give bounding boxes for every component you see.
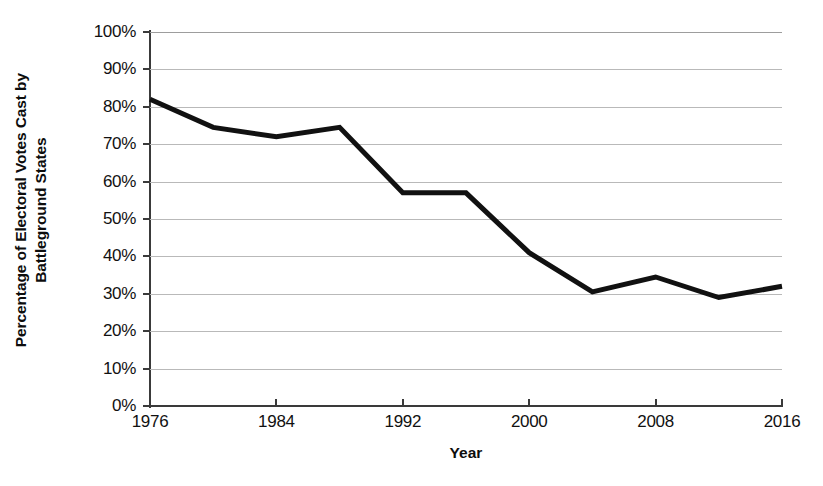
x-axis-title: Year	[150, 444, 782, 462]
x-axis-tick-labels: 197619841992200020082016	[0, 412, 823, 442]
chart-figure: Percentage of Electoral Votes Cast by Ba…	[0, 0, 823, 486]
y-tick-label-70: 70%	[103, 134, 136, 154]
y-tick-label-40: 40%	[103, 246, 136, 266]
y-tick-label-60: 60%	[103, 172, 136, 192]
x-tick-label-1984: 1984	[258, 412, 295, 432]
y-axis-title-line-2: Battleground States	[31, 73, 51, 347]
y-tick-label-30: 30%	[103, 284, 136, 304]
y-tick-label-100: 100%	[94, 22, 136, 42]
y-tick-label-20: 20%	[103, 321, 136, 341]
y-tick-label-80: 80%	[103, 97, 136, 117]
y-axis-title-line-1: Percentage of Electoral Votes Cast by	[12, 73, 29, 347]
y-axis-title: Percentage of Electoral Votes Cast by Ba…	[0, 0, 62, 420]
series-line-battleground-states	[150, 99, 782, 297]
x-tick-label-2000: 2000	[511, 412, 548, 432]
series-line-chart	[150, 32, 782, 406]
y-tick-label-10: 10%	[103, 359, 136, 379]
x-tick-label-2016: 2016	[764, 412, 801, 432]
y-tick-label-50: 50%	[103, 209, 136, 229]
x-tick-label-2008: 2008	[637, 412, 674, 432]
x-tick-label-1992: 1992	[384, 412, 421, 432]
x-tick-label-1976: 1976	[132, 412, 169, 432]
y-tick-label-90: 90%	[103, 59, 136, 79]
plot-area	[150, 32, 782, 406]
